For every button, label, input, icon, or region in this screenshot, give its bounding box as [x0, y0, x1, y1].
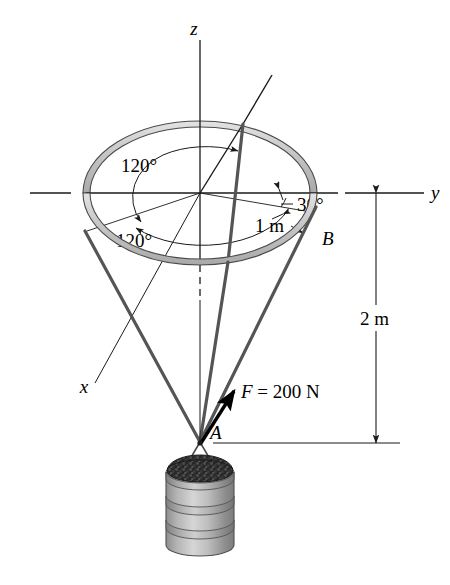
label-point-b: B [322, 228, 334, 249]
force-magnitude: 200 [273, 381, 302, 402]
tick-30-upper [279, 189, 283, 200]
z-axis-label: z [189, 18, 198, 39]
figure-canvas: z y x 120° 120° 30° [0, 0, 450, 585]
x-axis [95, 193, 200, 383]
gravel-top [167, 460, 233, 482]
radius-back-extension [243, 75, 272, 124]
label-120-upper: 120° [121, 155, 157, 176]
force-symbol: F [240, 381, 253, 402]
y-axis-label: y [429, 182, 440, 203]
force-unit: N [306, 381, 320, 402]
force-label: F = 200 N [240, 381, 320, 402]
label-2m: 2 m [360, 308, 389, 329]
barrel [166, 455, 234, 556]
label-1m: 1 m [255, 215, 284, 236]
arc-30 [281, 198, 286, 207]
label-point-a: A [208, 422, 222, 443]
radius-to-b [200, 193, 311, 212]
x-axis-label: x [79, 376, 89, 397]
force-equals: = [257, 381, 268, 402]
dimension-2m: 2 m [213, 193, 400, 443]
